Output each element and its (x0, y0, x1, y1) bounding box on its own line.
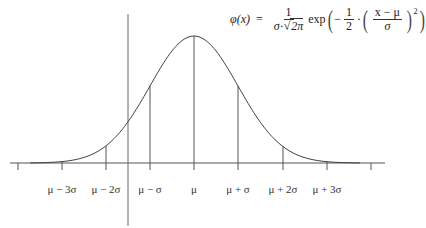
inner-left-paren-icon: ( (363, 7, 368, 33)
axis-label-mu-minus-2sigma: μ − 2σ (91, 183, 120, 195)
formula-standardized: x − μ σ (373, 6, 402, 33)
ordinate-lines (62, 36, 327, 163)
left-paren-icon: ( (327, 7, 332, 33)
axis-ticks (18, 163, 371, 170)
axis-label-mu: μ (191, 183, 197, 195)
formula-half: 1 2 (344, 6, 354, 33)
formula-coefficient: 1 σ·√2π (272, 6, 306, 33)
formula-lhs: φ(x) (230, 12, 250, 27)
formula-minus: − (334, 12, 341, 27)
formula-equals: = (256, 12, 263, 27)
axis-label-mu-plus-3sigma: μ + 3σ (312, 183, 341, 195)
right-paren-icon: ) (419, 7, 424, 33)
formula-exp: exp (308, 12, 325, 27)
axis-label-mu-plus-sigma: μ + σ (226, 183, 250, 195)
formula-dot: · (357, 12, 361, 27)
inner-right-paren-icon: ) (407, 7, 412, 33)
formula-power: 2 (414, 7, 418, 16)
axis-label-mu-minus-sigma: μ − σ (138, 183, 162, 195)
formula: φ(x) = 1 σ·√2π exp ( − 1 2 · ( x − μ σ )… (230, 6, 426, 33)
axis-label-mu-minus-3sigma: μ − 3σ (47, 183, 76, 195)
bell-curve (30, 36, 360, 163)
axis-label-mu-plus-2sigma: μ + 2σ (268, 183, 297, 195)
